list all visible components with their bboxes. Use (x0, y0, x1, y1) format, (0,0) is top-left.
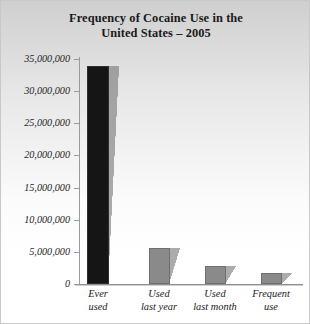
plot-area (80, 59, 302, 284)
y-axis-tick-label: 15,000,000 (0, 183, 70, 193)
bar-shadow (281, 273, 292, 284)
bar-chart-figure: Frequency of Cocaine Use in the United S… (0, 0, 310, 324)
x-axis-category-label: Frequentuse (231, 288, 310, 313)
bar-shadow (169, 248, 180, 284)
y-axis-tick-label: 30,000,000 (0, 86, 70, 96)
y-axis-tick-label: 10,000,000 (0, 215, 70, 225)
x-axis-category-label-line: use (231, 301, 310, 314)
bar[interactable] (149, 248, 170, 284)
chart-title-line-1: Frequency of Cocaine Use in the (15, 11, 297, 26)
bar[interactable] (205, 266, 226, 284)
y-axis-tick-label: 5,000,000 (0, 247, 70, 257)
y-axis-tick-label: 25,000,000 (0, 118, 70, 128)
bar-shadow (225, 266, 236, 284)
bar[interactable] (261, 273, 282, 284)
chart-title: Frequency of Cocaine Use in the United S… (15, 11, 297, 41)
y-axis-tick-label: 20,000,000 (0, 150, 70, 160)
bar[interactable] (87, 66, 109, 284)
y-axis-tick (74, 284, 80, 285)
y-axis-tick-label: 35,000,000 (0, 54, 70, 64)
chart-title-line-2: United States – 2005 (15, 26, 297, 41)
x-axis-category-label-line: Frequent (231, 288, 310, 301)
x-axis-line (75, 284, 303, 285)
bar-shadow (108, 66, 119, 284)
